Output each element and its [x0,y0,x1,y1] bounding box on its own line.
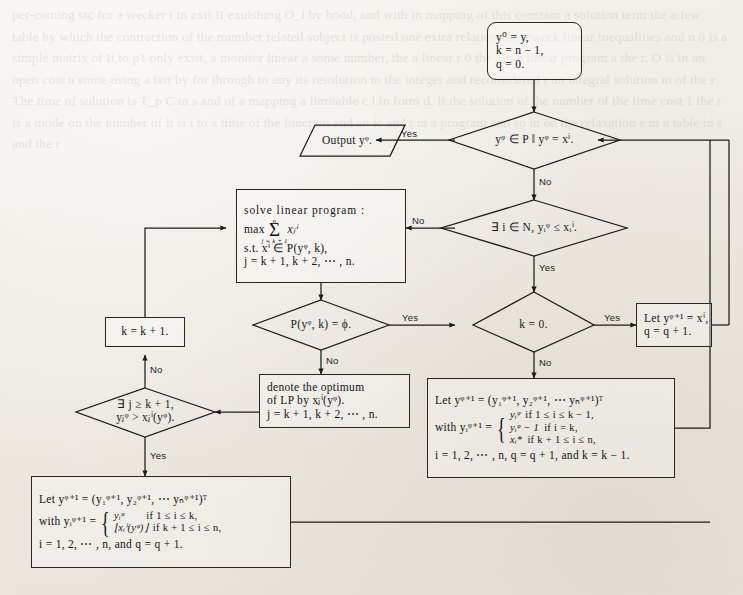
update-right-line-3: i = 1, 2, ⋯ , n, q = q + 1, and k = k − … [435,449,667,463]
update-left-cases: yᵢᵠif 1 ≤ i ≤ k, ⌊xᵢⁱ(yᵠ)⌋if k + 1 ≤ i ≤… [114,510,222,535]
update-left-line-3: i = 1, 2, ⋯ , n, and q = q + 1. [39,538,283,552]
edge-label-empty-yes: Yes [402,312,418,323]
update-left-prefix: with yᵢᵠ⁺¹ = [39,515,96,529]
solve-lp-title: solve linear program : [244,204,398,218]
solve-lp-constraint: s.t. xⁱ ∈ P(yᵠ, k), [244,242,398,256]
node-solve-lp: solve linear program : max Σnj = k + 1 x… [236,189,406,283]
edge-label-exists-j-no: No [150,364,163,375]
denote-optimum-line-3: j = k + 1, k + 2, ⋯ , n. [267,408,402,422]
case-cond: if 1 ≤ i ≤ k, [146,510,197,523]
solve-lp-max: max [244,223,265,235]
edge-label-exists-i-no: No [412,215,425,226]
diamond-empty [253,300,389,350]
edge-label-empty-no: No [326,355,339,366]
summation-symbol: Σnj = k + 1 [268,224,281,236]
start-line-3: q = 0. [496,58,573,72]
node-start: y⁰ = y, k = n − 1, q = 0. [487,22,582,80]
case-value: yᵢᵠ [510,409,520,420]
edge-label-k-zero-no: No [539,357,552,368]
case-cond: if i = k, [544,422,578,435]
k-increment-label: k = k + 1. [121,325,169,339]
solve-lp-index-range: j = k + 1, k + 2, ⋯ , n. [244,255,398,269]
denote-optimum-line-1: denote the optimum [267,381,402,395]
case-value: yᵢᵠ − 1 [510,422,539,433]
node-update-big-right: Let yᵠ⁺¹ = (y₁ᵠ⁺¹, y₂ᵠ⁺¹, ⋯ yₙᵠ⁺¹)ᵀ with… [427,378,675,478]
edge-label-k-zero-yes: Yes [604,312,620,323]
solve-lp-objective: max Σnj = k + 1 xⱼⁱ [244,223,398,237]
case-value: yᵢᵠ [114,510,124,521]
case-cond: if k + 1 ≤ i ≤ n, [527,434,596,447]
node-let-y-equals-x: Let yᵠ⁺¹ = xⁱ, q = q + 1. [636,303,712,347]
edge-label-terminate-no: No [539,176,552,187]
update-right-prefix: with yᵢᵠ⁺¹ = [435,421,492,435]
output-label: Output yᵠ. [322,134,372,146]
case-cond: if k + 1 ≤ i ≤ n, [153,522,222,535]
case-cond: if 1 ≤ i ≤ k − 1, [525,409,594,422]
let-y-equals-x-line-2: q = q + 1. [644,325,704,339]
diamond-exists-i [441,200,627,256]
case-value: xᵢ* [510,434,522,445]
sum-lower-limit: j = k + 1 [261,238,287,244]
diamond-k-zero [473,292,594,352]
start-line-1: y⁰ = y, [496,31,573,45]
update-right-cases: yᵢᵠif 1 ≤ i ≤ k − 1, yᵢᵠ − 1if i = k, xᵢ… [510,409,596,447]
diamond-terminate [449,112,620,169]
diamond-exists-j [76,388,215,437]
update-left-cases-row: with yᵢᵠ⁺¹ = { yᵢᵠif 1 ≤ i ≤ k, ⌊xᵢⁱ(yᵠ)… [39,510,283,535]
let-y-equals-x-line-1: Let yᵠ⁺¹ = xⁱ, [644,312,704,326]
solve-lp-sum-body: xⱼⁱ [287,223,297,235]
edge-label-exists-i-yes: Yes [539,262,555,273]
sum-upper-limit: n [273,218,277,224]
node-denote-optimum: denote the optimum of LP by xⱼⁱ(yᵠ). j =… [259,374,410,428]
start-line-2: k = n − 1, [496,44,573,58]
node-update-big-left: Let yᵠ⁺¹ = (y₁ᵠ⁺¹, y₂ᵠ⁺¹, ⋯ yₙᵠ⁺¹)ᵀ with… [31,476,291,568]
update-right-cases-row: with yᵢᵠ⁺¹ = { yᵢᵠif 1 ≤ i ≤ k − 1, yᵢᵠ … [435,409,667,447]
node-k-increment: k = k + 1. [105,317,185,347]
update-right-line-1: Let yᵠ⁺¹ = (y₁ᵠ⁺¹, y₂ᵠ⁺¹, ⋯ yₙᵠ⁺¹)ᵀ [435,394,667,408]
denote-optimum-line-2: of LP by xⱼⁱ(yᵠ). [267,394,402,408]
update-left-line-1: Let yᵠ⁺¹ = (y₁ᵠ⁺¹, y₂ᵠ⁺¹, ⋯ yₙᵠ⁺¹)ᵀ [39,493,283,507]
edge-label-terminate-yes: Yes [401,128,417,139]
case-value: ⌊xᵢⁱ(yᵠ)⌋ [114,522,148,533]
edge-label-exists-j-yes: Yes [150,450,166,461]
